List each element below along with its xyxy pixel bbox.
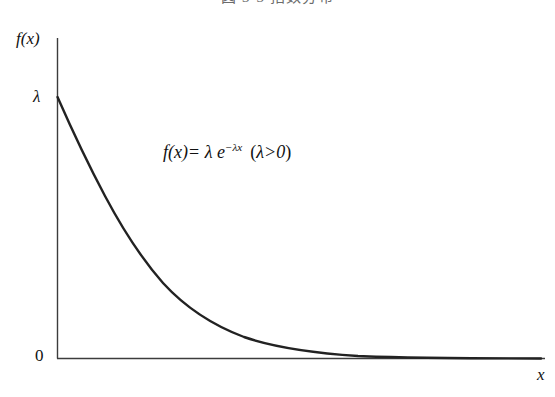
y-axis-label: f(x) bbox=[16, 30, 40, 47]
formula-base: e bbox=[217, 142, 225, 162]
exponential-distribution-figure: 図 3-3 指数分布 f(x) x λ 0 f(x)= λ e−λx(λ>0) bbox=[0, 0, 555, 397]
plot-canvas bbox=[0, 0, 555, 397]
formula-coefficient: λ bbox=[205, 142, 213, 162]
formula-equals: = bbox=[188, 142, 200, 162]
x-axis-label: x bbox=[537, 366, 545, 383]
formula-condition: λ>0 bbox=[256, 142, 285, 162]
y-tick-label-lambda: λ bbox=[33, 88, 40, 105]
formula-lhs: f(x) bbox=[163, 142, 188, 162]
origin-label-zero: 0 bbox=[35, 347, 44, 364]
formula-condition-open: ( bbox=[242, 142, 256, 162]
density-formula-annotation: f(x)= λ e−λx(λ>0) bbox=[163, 143, 291, 161]
exponential-curve bbox=[58, 97, 542, 359]
formula-exponent: −λx bbox=[225, 141, 242, 153]
formula-condition-close: ) bbox=[285, 142, 291, 162]
